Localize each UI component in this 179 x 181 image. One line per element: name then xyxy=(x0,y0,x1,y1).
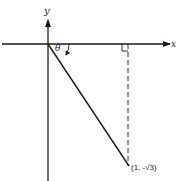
angle-diagram: x y θ (1, -√3) xyxy=(0,0,179,181)
angle-arc-arrow xyxy=(66,44,69,55)
angle-label: θ xyxy=(55,43,61,53)
y-axis-label: y xyxy=(43,5,50,16)
point-label: (1, -√3) xyxy=(131,163,157,172)
diagram-canvas: x y θ (1, -√3) xyxy=(0,0,179,181)
terminal-side-line xyxy=(48,44,129,166)
x-axis-label: x xyxy=(171,39,176,49)
right-angle-marker xyxy=(122,44,128,51)
